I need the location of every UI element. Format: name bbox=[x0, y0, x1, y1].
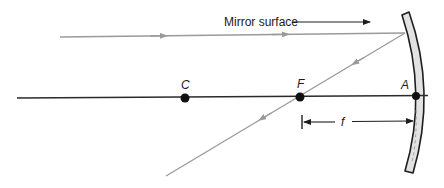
point-c bbox=[181, 94, 190, 103]
mirror-surface-label: Mirror surface bbox=[224, 15, 298, 29]
reflected-ray-arrow-2 bbox=[260, 113, 271, 120]
focal-length-right-arrow bbox=[352, 121, 413, 122]
concave-mirror-diagram: Mirror surface C F A f bbox=[0, 0, 444, 188]
point-f bbox=[296, 93, 305, 102]
point-a bbox=[412, 92, 420, 100]
mirror bbox=[402, 12, 424, 173]
reflected-ray-arrow-1 bbox=[353, 58, 364, 65]
focal-length-label: f bbox=[341, 115, 346, 129]
principal-axis bbox=[17, 96, 428, 99]
label-a: A bbox=[400, 78, 409, 92]
incident-ray bbox=[60, 33, 405, 37]
label-f: F bbox=[297, 77, 305, 91]
reflected-ray bbox=[166, 33, 405, 176]
label-c: C bbox=[181, 78, 190, 92]
